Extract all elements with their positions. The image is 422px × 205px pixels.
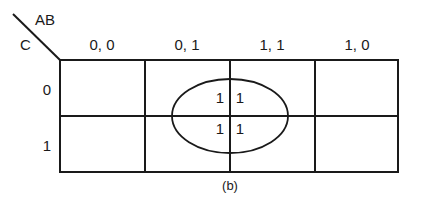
cell-r0-c2: 1 — [236, 89, 244, 106]
karnaugh-map: AB C 0, 0 0, 1 1, 1 1, 0 0 1 1 1 1 1 (b) — [0, 0, 422, 205]
map-grid — [60, 60, 398, 172]
row-header-0: 0 — [43, 81, 51, 98]
column-header-10: 1, 0 — [344, 36, 369, 53]
column-variables-label: AB — [35, 11, 55, 28]
column-header-11: 1, 1 — [259, 36, 284, 53]
cell-r0-c1: 1 — [216, 89, 224, 106]
figure-caption: (b) — [222, 178, 238, 193]
column-header-00: 0, 0 — [89, 36, 114, 53]
column-header-01: 0, 1 — [174, 36, 199, 53]
row-variable-label: C — [20, 36, 31, 53]
cell-r1-c1: 1 — [216, 120, 224, 137]
row-header-1: 1 — [43, 137, 51, 154]
cell-r1-c2: 1 — [236, 120, 244, 137]
